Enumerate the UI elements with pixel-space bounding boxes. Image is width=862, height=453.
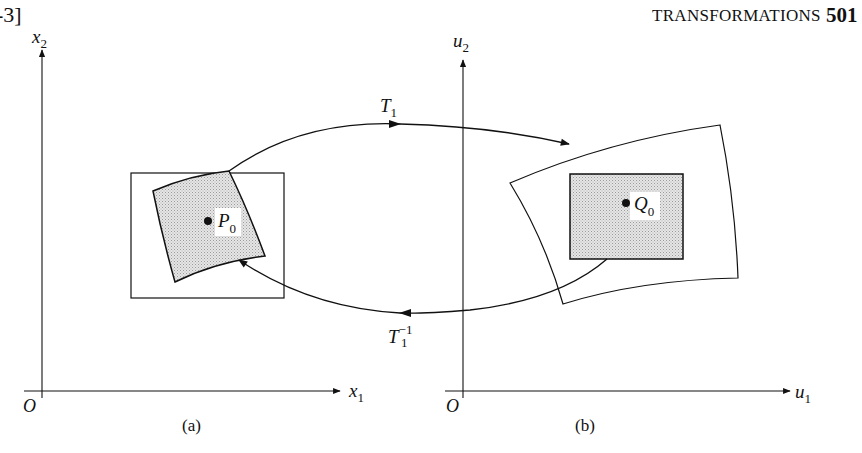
target-square: [570, 174, 683, 259]
point-p0-dot: [204, 217, 212, 225]
inverse-map-subscript: 1: [401, 335, 408, 350]
forward-map-arc: [229, 124, 569, 171]
x2-axis-label: x2: [31, 26, 47, 51]
caption-b: (b): [575, 416, 595, 435]
origin-label-a: O: [23, 396, 36, 416]
u2-axis-label: u2: [453, 30, 469, 55]
point-q0-dot: [622, 199, 630, 207]
inverse-map-arc: [239, 259, 607, 313]
u1-axis-label: u1: [795, 381, 811, 406]
forward-arrow-mid-icon: [389, 120, 401, 128]
origin-label-b: O: [446, 396, 459, 416]
x1-axis-label: x1: [348, 380, 364, 405]
transformation-figure: x2 x1 O P0 (a) u2 u1 O Q0 (b) T1 T−1 1: [0, 0, 862, 453]
inverse-arrow-mid-icon: [399, 309, 411, 317]
caption-a: (a): [182, 416, 201, 435]
forward-map-label: T1: [380, 95, 397, 120]
